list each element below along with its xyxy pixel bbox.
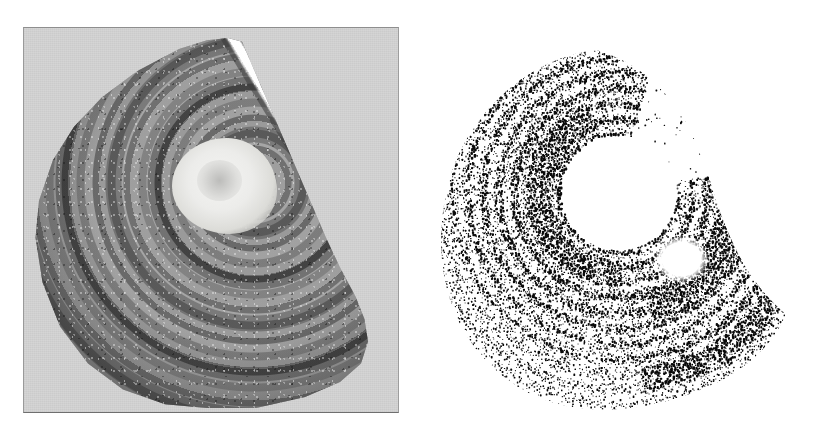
- stipple-canvas: [420, 14, 810, 426]
- figure-root: [0, 0, 822, 439]
- nucleus-core-center: [197, 160, 243, 201]
- panel-binarized-threshold-image: [420, 14, 810, 426]
- panel-grayscale-photomicrograph: [23, 27, 399, 413]
